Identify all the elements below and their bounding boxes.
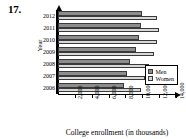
- bar-row: 2010: [58, 34, 176, 46]
- bar-women: [58, 64, 149, 68]
- bar-men: [58, 71, 127, 75]
- legend-swatch-women-icon: [148, 76, 153, 81]
- legend-swatch-men-icon: [148, 69, 153, 74]
- bar-row: 2012: [58, 10, 176, 22]
- bar-row: 2009: [58, 46, 176, 58]
- x-axis-tick-label: 8,000: [128, 86, 134, 100]
- y-axis-tick-label: 2010: [43, 37, 55, 43]
- bar-men: [58, 23, 141, 27]
- figure-page: 17. Year 2012201120102009200820072006 2,…: [0, 0, 186, 139]
- x-axis-tick-label: 4,000: [94, 86, 100, 100]
- x-axis-tick: [109, 94, 110, 98]
- legend-item: Women: [148, 75, 174, 82]
- bar-women: [58, 16, 157, 20]
- bar-women: [58, 76, 145, 80]
- x-axis-tick: [159, 94, 160, 98]
- legend-label-women: Women: [155, 76, 174, 82]
- x-axis-tick-label: 6,000: [111, 86, 117, 100]
- bar-women: [58, 28, 159, 32]
- bar-chart: Year 2012201120102009200820072006 2,0004…: [24, 8, 186, 139]
- x-axis-tick: [125, 94, 126, 98]
- y-axis-title: Year: [36, 29, 43, 63]
- bar-men: [58, 11, 142, 15]
- chart-legend: Men Women: [145, 65, 178, 85]
- x-axis-tick-label: 2,000: [77, 86, 83, 100]
- x-axis-tick: [142, 94, 143, 98]
- plot-area: 2012201120102009200820072006 2,0004,0006…: [58, 10, 176, 94]
- problem-number: 17.: [8, 4, 21, 15]
- bar-men: [58, 35, 139, 39]
- bar-row: 2011: [58, 22, 176, 34]
- bar-men: [58, 59, 130, 63]
- x-axis-tick: [92, 94, 93, 98]
- legend-label-men: Men: [155, 69, 166, 75]
- bar-men: [58, 47, 136, 51]
- y-axis-tick-label: 2007: [43, 73, 55, 79]
- y-axis-tick-label: 2009: [43, 49, 55, 55]
- y-axis-tick-label: 2006: [43, 85, 55, 91]
- x-axis-title: College enrollment (in thousands): [24, 129, 186, 137]
- x-axis-tick-label: 14,000: [179, 83, 185, 100]
- y-axis-tick-label: 2012: [43, 13, 55, 19]
- x-axis-tick: [75, 94, 76, 98]
- x-axis-tick: [176, 94, 177, 98]
- bar-women: [58, 40, 157, 44]
- y-axis-tick-label: 2011: [43, 25, 55, 31]
- bar-women: [58, 52, 154, 56]
- y-axis-tick-label: 2008: [43, 61, 55, 67]
- legend-item: Men: [148, 68, 174, 75]
